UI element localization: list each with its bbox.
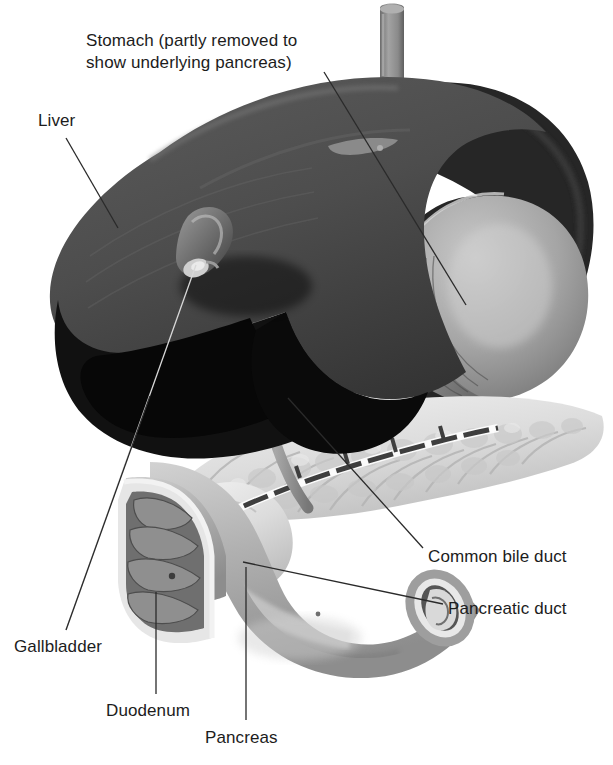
label-pancreatic-duct: Pancreatic duct: [448, 598, 567, 620]
label-gallbladder: Gallbladder: [14, 636, 102, 658]
label-liver: Liver: [38, 110, 75, 132]
label-duodenum: Duodenum: [106, 700, 190, 722]
label-stomach: Stomach (partly removed toshow underlyin…: [86, 30, 297, 74]
label-common-bile-duct: Common bile duct: [428, 546, 567, 568]
illustration-canvas: Stomach (partly removed toshow underlyin…: [0, 0, 613, 765]
esophagus-icon: [380, 4, 404, 79]
label-pancreas: Pancreas: [205, 727, 278, 749]
label-stomach-line2: show underlying pancreas): [86, 53, 292, 72]
label-stomach-line1: Stomach (partly removed to: [86, 31, 297, 50]
